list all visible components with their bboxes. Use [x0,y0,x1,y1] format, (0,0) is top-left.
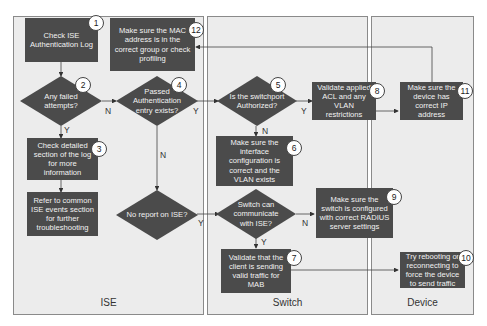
step-7-text: Validate that the client is sending vali… [224,253,288,290]
step-3-box: Check detailed section of the log for mo… [27,138,98,180]
step-11-box: Make sure the device has correct IP addr… [400,82,463,120]
decision-switch-ise-text: Switch can communicate with ISE? [230,200,282,228]
step-7-badge: 7 [286,250,302,266]
step-8-box: Validate applied ACL and any VLAN restri… [312,82,376,120]
ise-events-box: Refer to common ISE events section for f… [27,192,98,236]
edge-label-switch-ise-no: N [302,218,308,228]
step-10-box: Try rebooting or reconnecting to force t… [400,252,465,288]
edge-label-5-no: N [262,126,268,136]
step-9-text: Make sure the switch is configured with … [319,195,390,232]
step-1-box: Check ISE Authentication Log [25,18,98,62]
edge-label-no-report-yes: Y [198,218,204,228]
lane-label-ise: ISE [14,297,203,308]
edge-label-4-no: N [160,150,166,160]
decision-2-text: Any failed attempts? [37,92,85,110]
step-6-box: Make sure the interface configuration is… [216,136,293,186]
edge-label-switch-ise-yes: Y [261,237,267,247]
step-3-text: Check detailed section of the log for mo… [30,141,95,178]
edge-label-4-yes: Y [193,106,199,116]
step-8-badge: 8 [369,83,385,99]
step-9-badge: 9 [386,189,402,205]
step-10-badge: 10 [458,250,474,266]
step-6-badge: 6 [286,140,302,156]
decision-switch-ise-diamond: Switch can communicate with ISE? [216,189,296,239]
ise-events-text: Refer to common ISE events section for f… [30,196,95,233]
decision-no-report-diamond: No report on ISE? [116,190,198,240]
step-8-text: Validate applied ACL and any VLAN restri… [315,83,373,120]
step-4-badge: 4 [171,77,187,93]
step-1-badge: 1 [88,15,104,31]
step-3-badge: 3 [91,141,107,157]
step-12-badge: 12 [188,22,204,38]
edge-label-2-yes: Y [64,125,70,135]
lane-label-device: Device [372,297,473,308]
step-11-text: Make sure the device has correct IP addr… [403,83,460,120]
edge-label-5-yes: Y [301,106,307,116]
step-5-badge: 5 [270,77,286,93]
edge-label-2-no: N [105,106,111,116]
lane-label-switch: Switch [208,297,367,308]
step-10-text: Try rebooting or reconnecting to force t… [403,252,462,289]
step-7-box: Validate that the client is sending vali… [221,249,291,293]
step-9-box: Make sure the switch is configured with … [316,188,393,238]
decision-5-text: Is the switchport Authorized? [225,92,289,110]
step-1-text: Check ISE Authentication Log [28,31,95,49]
decision-no-report-text: No report on ISE? [119,210,195,219]
step-2-badge: 2 [75,77,91,93]
step-6-text: Make sure the interface configuration is… [219,138,290,184]
step-12-text: Make sure the MAC address is in the corr… [113,26,192,63]
step-12-box: Make sure the MAC address is in the corr… [110,18,195,71]
step-11-badge: 11 [457,83,473,99]
